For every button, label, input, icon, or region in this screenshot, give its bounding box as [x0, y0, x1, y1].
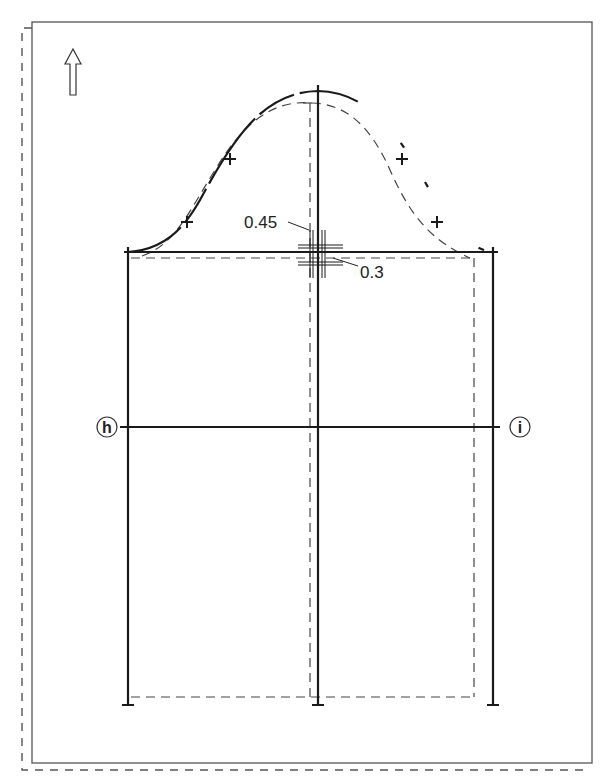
svg-text:i: i [518, 419, 522, 436]
svg-text:0.45: 0.45 [244, 213, 277, 232]
svg-text:h: h [102, 419, 112, 436]
marker-i: i [510, 417, 530, 437]
marker-h: h [97, 417, 117, 437]
svg-text:0.3: 0.3 [360, 263, 384, 282]
page-frame [32, 22, 592, 763]
sleeve-pattern-diagram: 0.45 0.3 h i [0, 0, 603, 781]
